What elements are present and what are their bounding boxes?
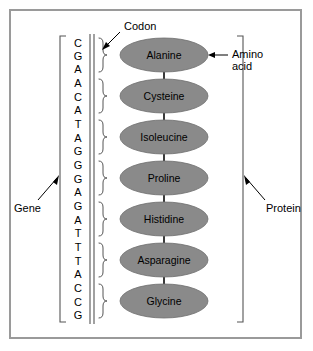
- amino-acid-label-proline: Proline: [148, 172, 181, 184]
- codon-brace-2: [99, 79, 107, 113]
- codon-brace-group: [99, 38, 107, 318]
- dna-base: A: [71, 133, 85, 144]
- dna-base: A: [71, 78, 85, 89]
- dna-base: A: [71, 187, 85, 198]
- protein-label: Protein: [266, 202, 301, 214]
- dna-base: C: [71, 283, 85, 294]
- gene-label: Gene: [14, 202, 41, 214]
- amino-acid-label-histidine: Histidine: [144, 213, 184, 225]
- amino-acid-callout-line1: Amino: [232, 48, 263, 60]
- protein-arrow: [244, 175, 265, 200]
- dna-base: G: [71, 146, 85, 157]
- gene-arrow: [38, 175, 59, 200]
- protein-bracket: [237, 36, 243, 322]
- dna-base: T: [71, 119, 85, 130]
- gene-bracket: [60, 36, 66, 322]
- amino-acid-arrow: [208, 52, 228, 58]
- amino-acid-label-cysteine: Cysteine: [144, 90, 185, 102]
- dna-base: T: [71, 256, 85, 267]
- dna-base: G: [71, 174, 85, 185]
- amino-acid-callout-label: Aminoacid: [232, 48, 276, 72]
- dna-base: G: [71, 201, 85, 212]
- dna-base: A: [71, 269, 85, 280]
- dna-base: A: [71, 215, 85, 226]
- amino-acid-label-asparagine: Asparagine: [137, 254, 190, 266]
- dna-base: C: [71, 38, 85, 49]
- codon-arrow: [102, 32, 120, 50]
- codon-label: Codon: [124, 20, 156, 32]
- dna-base: G: [71, 51, 85, 62]
- dna-base: A: [71, 105, 85, 116]
- dna-base: C: [71, 92, 85, 103]
- dna-base: C: [71, 297, 85, 308]
- codon-brace-5: [99, 202, 107, 236]
- dna-base: G: [71, 310, 85, 321]
- amino-acid-label-alanine: Alanine: [146, 49, 181, 61]
- codon-brace-6: [99, 243, 107, 277]
- amino-acid-label-isoleucine: Isoleucine: [140, 131, 187, 143]
- codon-brace-7: [99, 284, 107, 318]
- dna-base: T: [71, 228, 85, 239]
- figure-root: C G A A C A T A G G G A G A T T T A C C …: [0, 0, 313, 351]
- amino-acid-label-glycine: Glycine: [146, 295, 181, 307]
- codon-brace-3: [99, 120, 107, 154]
- amino-acid-callout-line2: acid: [232, 60, 252, 72]
- dna-base: G: [71, 160, 85, 171]
- dna-base: T: [71, 242, 85, 253]
- codon-brace-4: [99, 161, 107, 195]
- dna-base: A: [71, 64, 85, 75]
